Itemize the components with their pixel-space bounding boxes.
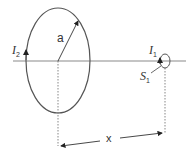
radius-label: a [57, 32, 64, 44]
current-label-small: I1 [149, 44, 157, 58]
distance-arrow-left [61, 141, 100, 146]
current-subscript: 1 [153, 51, 157, 58]
current-label-large: I2 [12, 44, 20, 58]
area-subscript: 1 [146, 77, 150, 84]
diagram-canvas [0, 0, 194, 158]
current-subscript: 2 [16, 51, 20, 58]
area-pointer [151, 66, 161, 73]
distance-label: x [106, 133, 112, 144]
area-label-small: S1 [140, 70, 150, 84]
distance-arrow-right [120, 133, 162, 138]
